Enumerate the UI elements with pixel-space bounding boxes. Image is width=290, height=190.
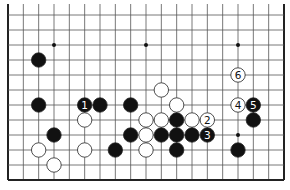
white-stone	[139, 128, 153, 142]
move-number-label: 6	[235, 69, 242, 81]
white-stone	[77, 113, 91, 127]
star-point	[144, 43, 148, 47]
black-stone	[246, 113, 260, 127]
black-stone	[169, 143, 183, 157]
white-stone	[154, 83, 168, 97]
star-point	[236, 133, 240, 137]
black-stone	[31, 98, 45, 112]
black-stone	[108, 143, 122, 157]
black-stone	[185, 128, 199, 142]
black-stone	[31, 53, 45, 67]
white-stone	[185, 113, 199, 127]
white-stone	[154, 113, 168, 127]
black-stone	[123, 98, 137, 112]
white-stone	[169, 98, 183, 112]
move-number-label: 4	[235, 99, 242, 111]
white-stone	[139, 113, 153, 127]
white-stone	[47, 158, 61, 172]
go-board-diagram: 123645	[0, 0, 290, 190]
move-number-label: 5	[250, 99, 257, 111]
white-stone	[77, 143, 91, 157]
star-point	[236, 43, 240, 47]
black-stone	[169, 113, 183, 127]
white-stone	[139, 143, 153, 157]
star-point	[52, 43, 56, 47]
black-stone	[154, 128, 168, 142]
go-board: 123645	[0, 0, 290, 190]
move-number-label: 1	[81, 99, 88, 111]
white-stone	[31, 143, 45, 157]
move-number-label: 3	[204, 129, 211, 141]
black-stone	[47, 128, 61, 142]
black-stone	[169, 128, 183, 142]
black-stone	[123, 128, 137, 142]
black-stone	[231, 143, 245, 157]
black-stone	[93, 98, 107, 112]
move-number-label: 2	[204, 114, 211, 126]
